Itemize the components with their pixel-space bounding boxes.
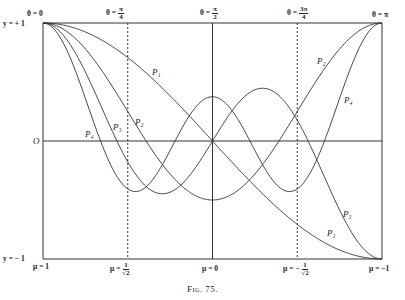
- denominator: 4: [119, 14, 123, 21]
- fraction: 1√2: [301, 262, 308, 277]
- label-theta-pi4-prefix: θ =: [106, 8, 116, 17]
- label-theta-pi: θ = π: [372, 11, 388, 19]
- label-mu-neg1: μ = −1: [369, 265, 389, 273]
- label-y-plus1: y = + 1: [3, 20, 25, 28]
- denominator: 2: [213, 14, 217, 21]
- label-y-minus1: y = − 1: [3, 255, 25, 263]
- curve-label-p3-right: P₃: [343, 210, 352, 219]
- label-mu-inv-sqrt2-prefix: μ =: [110, 264, 120, 273]
- label-theta-0: θ = 0: [27, 10, 43, 18]
- legendre-plot: [0, 0, 405, 300]
- label-theta-3pi4-prefix: θ =: [287, 8, 297, 17]
- figure-caption: Fig. 75.: [187, 284, 218, 294]
- curve-label-p2-right: P₂: [317, 57, 326, 66]
- curve-label-p1-top: P₁: [152, 68, 161, 77]
- curve-label-p1-right: P₁: [327, 229, 336, 238]
- label-mu-neg-inv-sqrt2: μ = − 1√2: [283, 262, 309, 277]
- denominator: 4: [302, 14, 306, 21]
- fraction: 3π4: [299, 6, 308, 21]
- label-theta-pi2: θ = π2: [200, 6, 218, 21]
- denominator: √2: [301, 270, 308, 277]
- fraction: 1√2: [122, 262, 129, 277]
- label-mu-inv-sqrt2: μ = 1√2: [110, 262, 130, 277]
- curve-label-p2-left: P₂: [135, 118, 144, 127]
- curve-label-p3-left: P₃: [113, 123, 122, 132]
- label-theta-3pi4: θ = 3π4: [287, 6, 308, 21]
- curve-label-p4-right: P₄: [344, 96, 353, 105]
- denominator: √2: [122, 270, 129, 277]
- fraction: π4: [118, 6, 124, 21]
- label-theta-pi4: θ = π4: [106, 6, 124, 21]
- label-origin: O: [33, 137, 40, 146]
- label-theta-pi2-prefix: θ =: [200, 8, 210, 17]
- label-mu-1: μ = 1: [33, 263, 49, 271]
- label-mu-0: μ = 0: [202, 265, 218, 273]
- label-mu-neg-inv-sqrt2-prefix: μ = −: [283, 264, 300, 273]
- fraction: π2: [212, 6, 218, 21]
- curve-label-p4-left: P₄: [85, 130, 94, 139]
